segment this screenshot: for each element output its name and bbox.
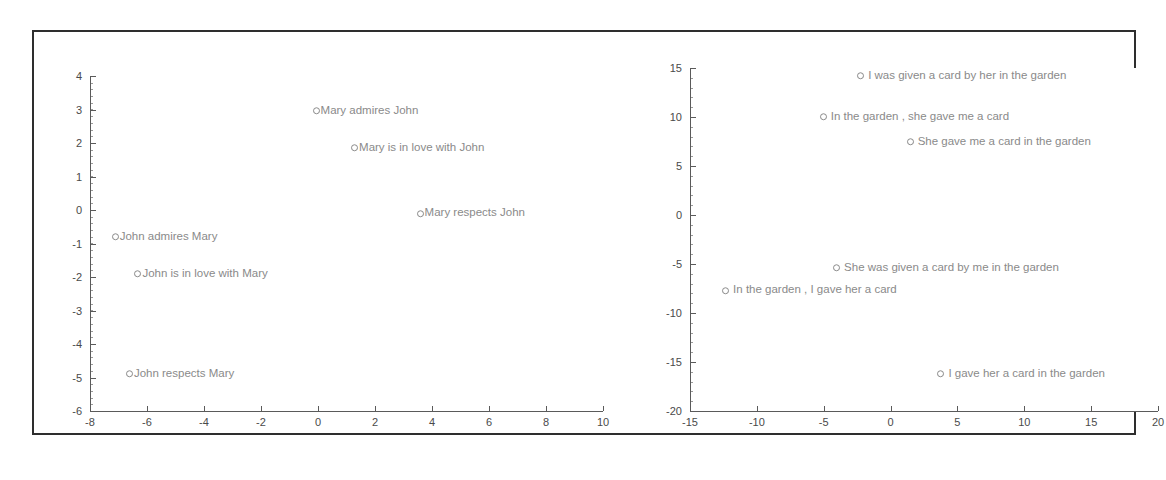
y-axis-minor-tick (91, 89, 93, 90)
y-axis-minor-tick (91, 197, 93, 198)
x-axis-tick-label: -8 (85, 417, 95, 428)
y-axis-minor-tick (691, 137, 693, 138)
x-axis-tick (957, 406, 958, 411)
y-axis-minor-tick (91, 324, 93, 325)
data-point-label: In the garden , she gave me a card (831, 111, 1009, 123)
y-axis-minor-tick (691, 293, 693, 294)
x-axis-tick-label: -2 (256, 417, 266, 428)
y-axis-tick-label: 10 (670, 112, 682, 123)
x-axis-tick-label: -4 (199, 417, 209, 428)
y-axis-minor-tick (691, 342, 693, 343)
y-axis-minor-tick (91, 270, 93, 271)
x-axis-tick-label: 0 (888, 417, 894, 428)
y-axis-minor-tick (91, 404, 93, 405)
x-axis-tick-label: 4 (429, 417, 435, 428)
x-axis-tick-label: -5 (819, 417, 829, 428)
y-axis-minor-tick (91, 170, 93, 171)
y-axis-tick-label: 2 (76, 138, 82, 149)
y-axis-minor-tick (691, 391, 693, 392)
y-axis-tick (91, 277, 96, 278)
y-axis-minor-tick (691, 372, 693, 373)
x-axis-tick (690, 406, 691, 411)
data-point[interactable]: Mary respects John (417, 208, 525, 220)
y-axis-minor-tick (691, 186, 693, 187)
y-axis-minor-tick (91, 136, 93, 137)
x-axis-spine (690, 411, 1158, 412)
data-point[interactable]: I gave her a card in the garden (937, 368, 1105, 380)
y-axis-minor-tick (91, 371, 93, 372)
y-axis-minor-tick (91, 163, 93, 164)
data-point[interactable]: I was given a card by her in the garden (857, 70, 1066, 82)
y-axis-tick (691, 411, 696, 412)
data-point[interactable]: She gave me a card in the garden (907, 136, 1091, 148)
circle-marker-icon (857, 72, 864, 79)
data-point[interactable]: She was given a card by me in the garden (833, 262, 1059, 274)
y-axis-minor-tick (91, 284, 93, 285)
y-axis-tick-label: -2 (72, 272, 82, 283)
y-axis-minor-tick (91, 351, 93, 352)
data-point[interactable]: John admires Mary (112, 231, 218, 243)
y-axis-tick-label: 0 (76, 205, 82, 216)
y-axis-minor-tick (91, 384, 93, 385)
y-axis-minor-tick (91, 123, 93, 124)
y-axis-minor-tick (691, 97, 693, 98)
circle-marker-icon (833, 264, 840, 271)
data-point[interactable]: John respects Mary (126, 368, 234, 380)
x-axis-tick (261, 406, 262, 411)
y-axis-tick-label: -3 (72, 305, 82, 316)
y-axis-tick (691, 68, 696, 69)
y-axis-minor-tick (91, 250, 93, 251)
data-point-label: Mary is in love with John (359, 142, 484, 154)
y-axis-tick-label: -1 (72, 238, 82, 249)
y-axis-minor-tick (91, 257, 93, 258)
axes-right-plot: -20-15-10-5051015-15-10-505101520I was g… (690, 68, 1158, 411)
y-axis-minor-tick (91, 317, 93, 318)
data-point-label: John is in love with Mary (142, 268, 267, 280)
x-axis-tick-label: 10 (1018, 417, 1030, 428)
data-point-label: She was given a card by me in the garden (844, 262, 1059, 274)
circle-marker-icon (722, 287, 729, 294)
data-point[interactable]: Mary is in love with John (351, 142, 484, 154)
x-axis-tick (757, 406, 758, 411)
y-axis-minor-tick (691, 146, 693, 147)
y-axis-minor-tick (691, 303, 693, 304)
data-point-label: John respects Mary (134, 368, 234, 380)
circle-marker-icon (112, 233, 119, 240)
x-axis-tick-label: 2 (372, 417, 378, 428)
y-axis-tick-label: -4 (72, 339, 82, 350)
y-axis-minor-tick (691, 88, 693, 89)
y-axis-minor-tick (91, 237, 93, 238)
x-axis-tick-label: 6 (486, 417, 492, 428)
y-axis-minor-tick (691, 382, 693, 383)
y-axis-tick-label: -5 (72, 372, 82, 383)
y-axis-minor-tick (91, 331, 93, 332)
y-axis-tick (691, 215, 696, 216)
y-axis-minor-tick (691, 244, 693, 245)
y-axis-minor-tick (91, 364, 93, 365)
x-axis-tick-label: -10 (749, 417, 765, 428)
y-axis-tick (91, 210, 96, 211)
y-axis-minor-tick (691, 401, 693, 402)
y-axis-minor-tick (691, 176, 693, 177)
circle-marker-icon (313, 108, 320, 115)
x-axis-tick-label: -15 (682, 417, 698, 428)
y-axis-spine (690, 68, 691, 411)
y-axis-minor-tick (691, 78, 693, 79)
y-axis-tick-label: 4 (76, 71, 82, 82)
data-point[interactable]: In the garden , I gave her a card (722, 285, 897, 297)
circle-marker-icon (937, 370, 944, 377)
y-axis-minor-tick (91, 130, 93, 131)
scatter-plot-right: -20-15-10-5051015-15-10-505101520I was g… (622, 32, 1136, 433)
data-point[interactable]: John is in love with Mary (134, 268, 267, 280)
y-axis-minor-tick (691, 235, 693, 236)
circle-marker-icon (820, 114, 827, 121)
data-point[interactable]: In the garden , she gave me a card (820, 111, 1009, 123)
y-axis-tick (91, 378, 96, 379)
y-axis-tick (91, 344, 96, 345)
y-axis-minor-tick (691, 274, 693, 275)
y-axis-tick (91, 110, 96, 111)
data-point[interactable]: Mary admires John (313, 105, 419, 117)
y-axis-minor-tick (91, 217, 93, 218)
circle-marker-icon (907, 138, 914, 145)
data-point-label: She gave me a card in the garden (918, 136, 1091, 148)
